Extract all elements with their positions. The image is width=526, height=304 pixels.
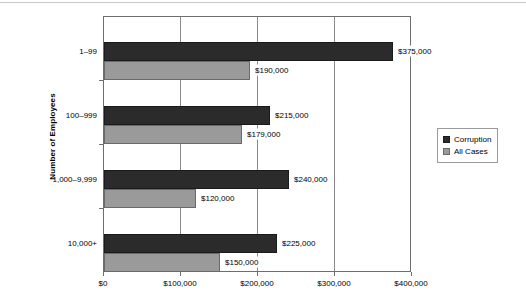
- x-tick-label-1: $100,000: [163, 279, 196, 288]
- bar-value-allcases-2: $179,000: [245, 129, 281, 140]
- x-axis-tick-3: [334, 272, 335, 276]
- bar-allcases-2: [104, 125, 242, 144]
- bar-value-corruption-3: $240,000: [292, 174, 328, 185]
- y-tick-label-2: 100–999: [0, 111, 97, 120]
- bar-corruption-3: [104, 170, 289, 189]
- bar-corruption-2: [104, 106, 270, 125]
- bar-allcases-3: [104, 189, 196, 208]
- bar-corruption-1: [104, 42, 393, 61]
- y-tick-label-3: 1,000–9,999: [0, 175, 97, 184]
- x-axis-tick-0: [103, 272, 104, 276]
- bar-allcases-1: [104, 61, 250, 80]
- x-tick-label-4: $400,000: [394, 279, 427, 288]
- y-axis-category-labels: 1–99 100–999 1,000–9,999 10,000+: [0, 0, 97, 304]
- y-tick-label-1: 1–99: [0, 47, 97, 56]
- bar-allcases-4: [104, 253, 220, 272]
- legend-label-corruption: Corruption: [454, 135, 491, 144]
- x-axis-tick-4: [411, 272, 412, 276]
- bar-value-corruption-4: $225,000: [280, 238, 316, 249]
- bar-value-allcases-4: $150,000: [223, 257, 259, 268]
- legend-item-all-cases: All Cases: [443, 146, 491, 157]
- chart-legend: Corruption All Cases: [437, 128, 498, 163]
- x-tick-label-3: $300,000: [317, 279, 350, 288]
- legend-swatch-corruption-icon: [443, 136, 450, 143]
- x-tick-label-2: $200,000: [240, 279, 273, 288]
- x-axis-tick-2: [257, 272, 258, 276]
- y-tick-label-4: 10,000+: [0, 239, 97, 248]
- x-tick-label-0: $0: [99, 279, 108, 288]
- bar-value-allcases-3: $120,000: [199, 193, 235, 204]
- legend-swatch-all-cases-icon: [443, 148, 450, 155]
- legend-label-all-cases: All Cases: [454, 147, 488, 156]
- bar-value-corruption-2: $215,000: [273, 110, 309, 121]
- plot-area: $375,000 $190,000 $215,000 $179,000 $240…: [103, 16, 411, 272]
- bar-value-corruption-1: $375,000: [396, 46, 432, 57]
- x-axis-tick-1: [180, 272, 181, 276]
- legend-item-corruption: Corruption: [443, 134, 491, 145]
- chart-screenshot: Number of Employees 1–99 100–999 1,000–9…: [0, 0, 526, 304]
- bar-value-allcases-1: $190,000: [253, 65, 289, 76]
- bar-corruption-4: [104, 234, 277, 253]
